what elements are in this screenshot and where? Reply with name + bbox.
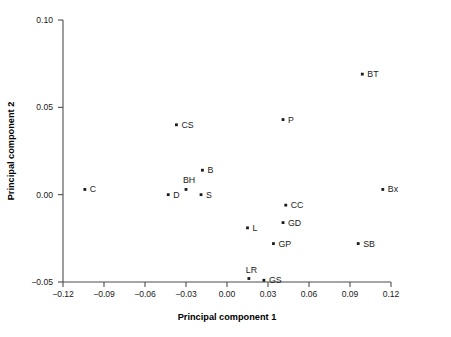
data-point-label: P [288,115,294,125]
data-point-marker [282,118,285,121]
data-point-label: BT [367,69,379,79]
data-point-marker [247,277,250,280]
data-point: LR [246,265,257,280]
data-point-marker [246,226,249,229]
data-point: Bx [381,184,398,194]
data-point: P [282,115,294,125]
x-tick-label: 0.06 [301,289,318,299]
data-point: GS [263,275,282,285]
data-point-marker [263,279,266,282]
x-tick-label: −0.12 [52,289,74,299]
data-point: BT [361,69,379,79]
data-point-marker [175,123,178,126]
x-tick-label: −0.06 [134,289,156,299]
data-point: S [200,190,212,200]
data-point: GD [282,218,302,228]
y-tick-label: 0.05 [36,102,53,112]
data-point-label: B [207,165,213,175]
data-point-label: GD [288,218,301,228]
data-point: CS [175,120,194,130]
x-tick-label: −0.09 [93,289,115,299]
data-point-marker [282,221,285,224]
data-point-label: LR [246,265,257,275]
data-point-label: CC [291,200,304,210]
x-tick-label: 0.09 [342,289,359,299]
data-point-label: Bx [388,184,399,194]
data-point-group: BTPCSBBHCBxDSCCGDLGPSBLRGS [83,69,398,285]
data-point-marker [185,188,188,191]
x-axis-title: Principal component 1 [178,312,277,322]
x-tick-label: 0.12 [383,289,400,299]
data-point-label: S [206,190,212,200]
data-point-label: GP [278,239,291,249]
y-tick-label: 0.00 [36,190,53,200]
data-point: D [167,190,180,200]
data-point-marker [167,193,170,196]
y-axis-ticks: 0.100.050.00−0.05 [31,15,63,287]
data-point-label: D [173,190,179,200]
y-tick-label: −0.05 [31,277,53,287]
plot-axes [63,20,391,282]
data-point: GP [272,239,291,249]
data-point-marker [361,73,364,76]
principal-component-scatter-chart: −0.12−0.09−0.06−0.030.000.030.060.090.12… [0,0,451,337]
data-point-label: CS [181,120,193,130]
data-point-marker [381,188,384,191]
x-tick-label: 0.00 [219,289,236,299]
data-point-marker [201,169,204,172]
data-point-marker [357,242,360,245]
scatter-plot-figure: −0.12−0.09−0.06−0.030.000.030.060.090.12… [0,0,451,337]
data-point-label: L [253,223,258,233]
data-point: SB [357,239,375,249]
data-point-marker [83,188,86,191]
y-tick-label: 0.10 [36,15,53,25]
x-tick-label: 0.03 [260,289,277,299]
x-axis-ticks: −0.12−0.09−0.06−0.030.000.030.060.090.12 [52,282,399,299]
data-point-marker [284,204,287,207]
data-point-label: C [90,184,97,194]
data-point: C [83,184,96,194]
data-point-label: SB [363,239,375,249]
y-axis-title: Principal component 2 [6,102,16,201]
x-tick-label: −0.03 [175,289,197,299]
data-point: B [201,165,213,175]
data-point: BH [183,175,195,190]
data-point: L [246,223,257,233]
data-point-label: BH [183,175,195,185]
data-point-label: GS [269,275,282,285]
data-point-marker [200,193,203,196]
data-point: CC [284,200,304,210]
data-point-marker [272,242,275,245]
